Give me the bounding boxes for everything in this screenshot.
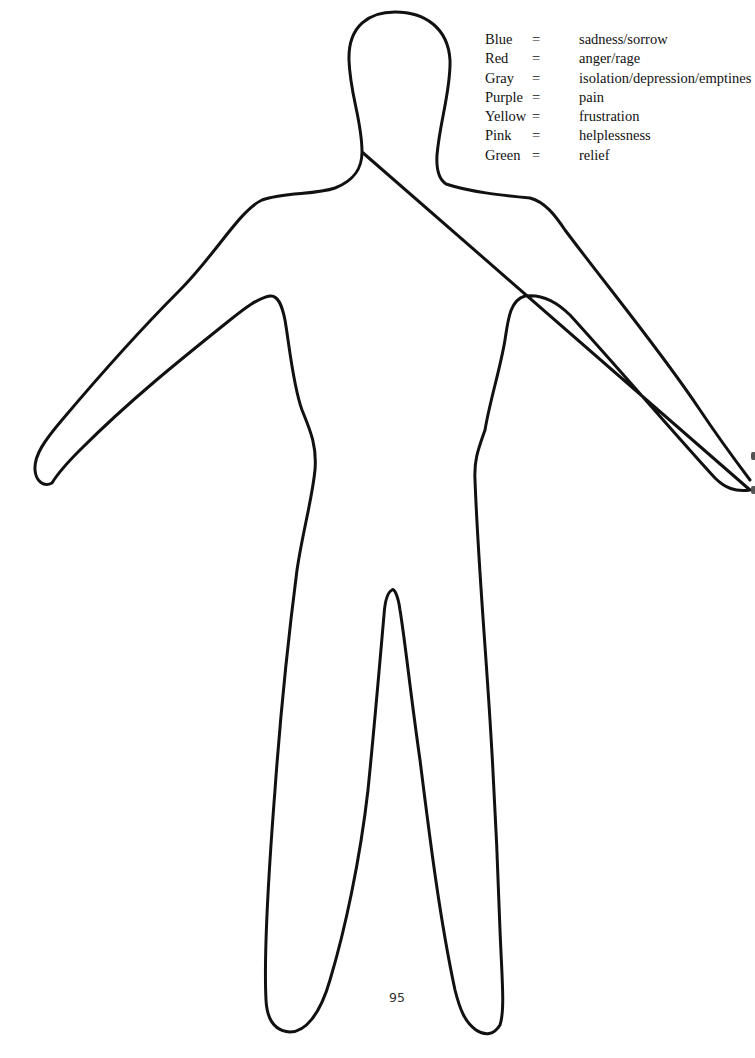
legend-equals: = xyxy=(532,126,540,145)
scan-edge-mark xyxy=(751,452,755,460)
legend-meaning: frustration xyxy=(579,107,639,126)
legend-color-label: Green xyxy=(485,146,520,165)
human-body-outline xyxy=(0,0,755,1058)
legend-meaning: relief xyxy=(579,146,610,165)
legend-color-label: Pink xyxy=(485,126,512,145)
legend-color-label: Blue xyxy=(485,30,512,49)
legend-meaning: sadness/sorrow xyxy=(579,30,668,49)
legend-color-label: Purple xyxy=(485,88,523,107)
legend-color-label: Yellow xyxy=(485,107,526,126)
legend-equals: = xyxy=(532,30,540,49)
page-number: 95 xyxy=(389,990,405,1005)
legend-color-label: Red xyxy=(485,49,508,68)
legend-equals: = xyxy=(532,146,540,165)
body-contour xyxy=(35,12,750,1034)
legend-meaning: anger/rage xyxy=(579,49,640,68)
legend-meaning: helplessness xyxy=(579,126,651,145)
legend-color-label: Gray xyxy=(485,69,514,88)
legend-meaning: isolation/depression/emptines xyxy=(579,69,751,88)
legend-meaning: pain xyxy=(579,88,604,107)
legend-equals: = xyxy=(532,49,540,68)
worksheet-page: Blue = sadness/sorrow Red = anger/rage G… xyxy=(0,0,755,1058)
legend-equals: = xyxy=(532,69,540,88)
scan-edge-mark xyxy=(751,486,755,494)
legend-equals: = xyxy=(532,107,540,126)
legend-equals: = xyxy=(532,88,540,107)
